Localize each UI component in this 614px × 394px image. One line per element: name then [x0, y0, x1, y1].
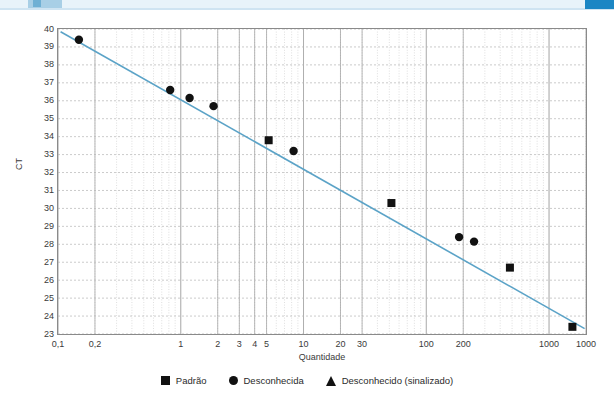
square-marker-icon	[161, 376, 170, 385]
x-tick-label: 30	[357, 339, 367, 349]
x-tick-label: 4	[252, 339, 257, 349]
data-point	[387, 199, 395, 207]
legend-label: Padrão	[176, 375, 207, 386]
y-tick-label: 24	[24, 312, 54, 321]
legend-label: Desconhecido (sinalizado)	[342, 375, 453, 386]
triangle-marker-icon	[326, 376, 336, 386]
y-tick-label: 39	[24, 42, 54, 51]
x-tick-label: 1	[178, 339, 183, 349]
x-tick-label: 1000	[539, 339, 559, 349]
data-point	[209, 102, 217, 110]
trendline	[61, 32, 585, 329]
data-point	[289, 147, 297, 155]
data-point	[470, 237, 478, 245]
x-tick-label: 3	[237, 339, 242, 349]
x-axis-title: Quantidade	[299, 352, 346, 362]
y-tick-label: 26	[24, 276, 54, 285]
circle-marker-icon	[229, 376, 238, 385]
top-left-accent-chip-dark	[33, 0, 41, 7]
legend-item[interactable]: Desconhecida	[229, 375, 304, 386]
data-point	[455, 233, 463, 241]
y-tick-label: 32	[24, 168, 54, 177]
x-tick-label: 20	[335, 339, 345, 349]
y-tick-label: 31	[24, 186, 54, 195]
x-tick-label: 2	[215, 339, 220, 349]
chart-container: CT 403938373635343332313029282726252423 …	[0, 10, 614, 394]
plot-area	[57, 28, 587, 335]
top-right-accent-chip	[585, 0, 614, 9]
x-tick-label: 1000	[576, 339, 596, 349]
y-tick-label: 28	[24, 240, 54, 249]
data-point	[265, 136, 273, 144]
y-tick-label: 36	[24, 96, 54, 105]
data-point	[75, 36, 83, 44]
x-tick-label: 200	[456, 339, 471, 349]
data-point	[506, 264, 514, 272]
data-point	[185, 94, 193, 102]
plot-svg	[58, 29, 586, 334]
y-tick-label: 34	[24, 132, 54, 141]
x-tick-label: 0,1	[52, 339, 65, 349]
legend-item[interactable]: Desconhecido (sinalizado)	[326, 375, 453, 386]
y-tick-label: 27	[24, 258, 54, 267]
y-tick-label: 29	[24, 222, 54, 231]
legend-item[interactable]: Padrão	[161, 375, 207, 386]
series-square	[265, 136, 577, 331]
y-tick-label: 37	[24, 78, 54, 87]
y-tick-label: 40	[24, 25, 54, 34]
x-tick-label: 0,2	[89, 339, 102, 349]
data-point	[166, 86, 174, 94]
x-tick-label: 5	[264, 339, 269, 349]
y-tick-label: 33	[24, 150, 54, 159]
y-tick-label: 35	[24, 114, 54, 123]
y-axis-tick-labels: 403938373635343332313029282726252423	[20, 28, 54, 335]
chart-legend: PadrãoDesconhecidaDesconhecido (sinaliza…	[0, 375, 614, 386]
y-tick-label: 30	[24, 204, 54, 213]
data-point	[568, 323, 576, 331]
x-tick-label: 10	[299, 339, 309, 349]
x-tick-label: 100	[419, 339, 434, 349]
y-tick-label: 38	[24, 60, 54, 69]
legend-label: Desconhecida	[244, 375, 304, 386]
chart-screenshot: CT 403938373635343332313029282726252423 …	[0, 0, 614, 394]
x-axis-tick-labels: 0,10,21234510203010020010001000	[0, 337, 614, 353]
y-tick-label: 25	[24, 294, 54, 303]
